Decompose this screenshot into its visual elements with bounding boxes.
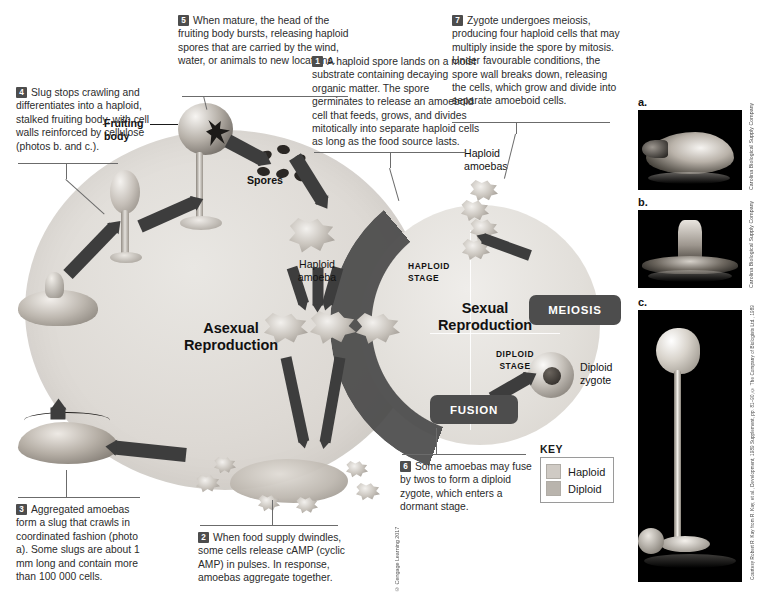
photo-b-early-fruiting-body	[638, 210, 742, 288]
step-7-text: Zygote undergoes meiosis, producing four…	[452, 15, 620, 106]
step-callout-3: 3Aggregated amoebas form a slug that cra…	[16, 503, 148, 583]
asexual-label-line1: Asexual	[203, 320, 259, 336]
diploid-zygote-label-line1: Diploid	[580, 361, 612, 373]
meiosis-pill-text: MEIOSIS	[548, 304, 602, 316]
sexual-label-line1: Sexual	[462, 300, 509, 316]
step-3-number: 3	[16, 504, 27, 515]
step-4-number: 4	[16, 87, 27, 98]
step-3-text: Aggregated amoebas form a slug that craw…	[16, 504, 140, 582]
step-6-bracket	[402, 454, 526, 455]
photo-a-slug	[638, 110, 742, 190]
aggregation-core	[230, 459, 348, 503]
photo-a-credit: Carolina Biological Supply Company	[748, 110, 754, 190]
diploid-zygote-label: Diploid zygote	[580, 361, 612, 387]
step-6-number: 6	[400, 461, 411, 472]
haploid-amoeba-label-line2: amoeba	[298, 271, 336, 283]
diploid-stage-label: DIPLOID STAGE	[484, 348, 546, 372]
asexual-reproduction-label: Asexual Reproduction	[166, 320, 296, 354]
step-2-stem	[272, 500, 273, 525]
step-2-bracket	[200, 525, 338, 526]
step-7-number: 7	[452, 15, 463, 26]
step-1-leader	[389, 168, 399, 201]
key-row-haploid: Haploid	[546, 464, 605, 479]
arrow-slug-to-mound	[51, 408, 66, 420]
fruiting-body-base	[180, 216, 222, 230]
haploid-amoeba-label-line1: Haploid	[299, 258, 335, 270]
step-4-bracket	[18, 163, 118, 164]
photo-b-letter: b.	[638, 196, 648, 208]
photo-c-mature-fruiting-body	[638, 310, 742, 582]
figure-canvas: Fruiting body Spores Haploid amoeba Hapl…	[0, 0, 777, 606]
key-swatch-haploid	[546, 464, 561, 479]
step-callout-4: 4Slug stops crawling and differentiates …	[16, 86, 168, 153]
amoeba-aggregation-mass	[196, 455, 382, 517]
fusion-pill: FUSION	[430, 395, 518, 424]
amoeba	[214, 457, 236, 474]
fruiting-body-stalk	[196, 152, 203, 224]
key-label-haploid: Haploid	[568, 466, 605, 478]
step-7-stem	[516, 122, 517, 134]
amoeba	[196, 475, 220, 493]
spores-label: Spores	[247, 174, 283, 187]
mound-stage-tip	[45, 272, 64, 298]
haploid-stage-line2: STAGE	[408, 273, 439, 283]
slug-direction-arrow	[24, 412, 110, 422]
step-callout-2: 2When food supply dwindles, some cells r…	[198, 531, 348, 585]
spore	[276, 144, 291, 156]
haploid-stage-label: HAPLOID STAGE	[408, 260, 470, 284]
photo-c-letter: c.	[638, 296, 647, 308]
step-5-number: 5	[178, 15, 189, 26]
step-callout-6: 6Some amoebas may fuse by twos to form a…	[400, 460, 532, 514]
diploid-stage-line2: STAGE	[499, 361, 530, 371]
fusion-pill-text: FUSION	[450, 404, 498, 416]
haploid-stage-line1: HAPLOID	[408, 261, 450, 271]
step-callout-7: 7Zygote undergoes meiosis, producing fou…	[452, 14, 620, 108]
step-6-stem	[436, 428, 437, 454]
key-title: KEY	[540, 443, 614, 455]
developing-fruiting-body-base	[110, 252, 142, 263]
meiosis-pill: MEIOSIS	[529, 295, 621, 325]
copyright-notice: © Cengage Learning 2017	[394, 530, 400, 592]
key-row-diploid: Diploid	[546, 481, 605, 496]
sexual-reproduction-label: Sexual Reproduction	[426, 300, 544, 334]
step-6-text: Some amoebas may fuse by twos to form a …	[400, 461, 532, 512]
step-1-number: 1	[312, 56, 323, 67]
diploid-stage-line1: DIPLOID	[496, 349, 534, 359]
step-7-bracket	[452, 122, 610, 123]
key-box: Haploid Diploid	[540, 457, 614, 503]
step-1-stem	[390, 152, 391, 168]
haploid-amoebas-label-line2: amoebas	[464, 160, 508, 172]
step-2-number: 2	[198, 532, 209, 543]
amoeba	[356, 483, 380, 501]
spores-label-text: Spores	[247, 174, 283, 186]
haploid-amoeba-label: Haploid amoeba	[289, 258, 345, 284]
asexual-label-line2: Reproduction	[184, 337, 278, 353]
photo-a-letter: a.	[638, 96, 647, 108]
step-2-text: When food supply dwindles, some cells re…	[198, 532, 345, 583]
developing-fruiting-body	[110, 170, 140, 214]
sexual-label-line2: Reproduction	[438, 317, 532, 333]
step-4-text: Slug stops crawling and differentiates i…	[16, 87, 149, 152]
haploid-amoebas-label: Haploid amoebas	[464, 147, 508, 173]
key-legend: KEY Haploid Diploid	[540, 443, 614, 503]
step-4-stem	[66, 163, 67, 179]
step-3-stem	[66, 470, 67, 497]
diploid-zygote-label-line2: zygote	[580, 374, 611, 386]
photo-c-credit: Courtesy Robert R. Kay from R. Kay, et a…	[750, 420, 755, 580]
step-3-bracket	[18, 497, 140, 498]
developing-fruiting-body-stalk	[121, 210, 129, 258]
photo-b-credit: Carolina Biological Supply Company	[748, 210, 754, 288]
amoeba	[346, 461, 368, 478]
key-label-diploid: Diploid	[568, 483, 602, 495]
key-swatch-diploid	[546, 481, 561, 496]
